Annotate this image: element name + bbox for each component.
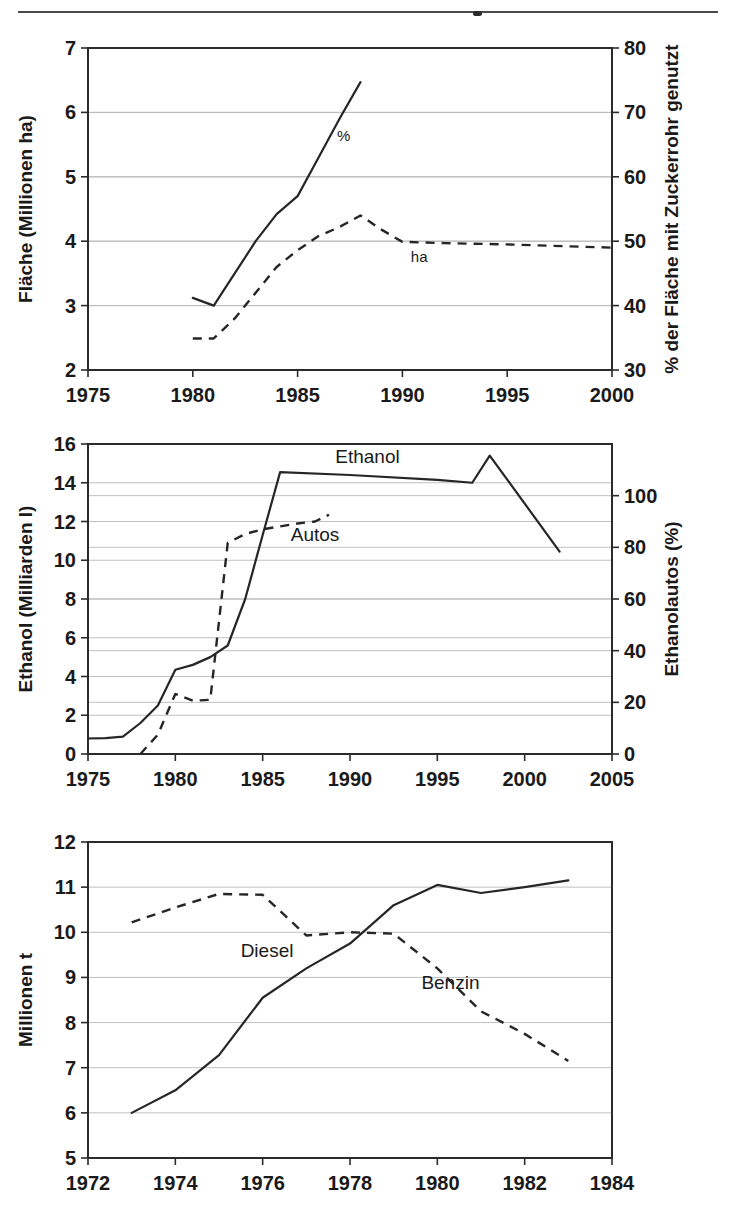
y2-tick-label: 70 xyxy=(624,101,646,123)
x-tick-label: 1974 xyxy=(153,1172,198,1194)
y-tick-label: 2 xyxy=(65,359,76,381)
x-tick-label: 1972 xyxy=(66,1172,111,1194)
y2-tick-label: 80 xyxy=(624,536,646,558)
y-tick-label: 11 xyxy=(55,876,76,898)
y2-tick-label: 40 xyxy=(624,295,646,317)
y2-axis-title: Ethanolautos (%) xyxy=(661,521,682,676)
y-tick-label: 5 xyxy=(65,1147,76,1169)
series-label-benzin: Benzin xyxy=(421,972,479,993)
y2-tick-label: 60 xyxy=(624,588,646,610)
y2-tick-label: 40 xyxy=(624,640,646,662)
y2-tick-label: 20 xyxy=(624,691,646,713)
y2-tick-label: 100 xyxy=(624,485,657,507)
y-tick-label: 14 xyxy=(54,472,77,494)
series-line-% xyxy=(193,82,361,305)
x-tick-label: 1975 xyxy=(66,384,111,406)
y-tick-label: 3 xyxy=(65,295,76,317)
chart-flaeche-zuckerrohr: 1975198019851990199520002345673040506070… xyxy=(0,22,731,414)
x-tick-label: 2000 xyxy=(590,384,635,406)
y-tick-label: 10 xyxy=(54,549,76,571)
x-tick-label: 1990 xyxy=(328,768,373,790)
x-tick-label: 1978 xyxy=(328,1172,373,1194)
x-tick-label: 1990 xyxy=(380,384,425,406)
y-axis-title: Ethanol (Milliarden l) xyxy=(15,506,36,693)
plot-frame xyxy=(88,842,612,1158)
x-tick-label: 1995 xyxy=(485,384,530,406)
y2-tick-label: 50 xyxy=(624,230,646,252)
y-tick-label: 4 xyxy=(65,666,77,688)
plot-frame xyxy=(88,48,612,370)
top-divider-rule xyxy=(18,11,718,13)
series-line-ha xyxy=(193,215,612,338)
x-tick-label: 2000 xyxy=(502,768,547,790)
chart-svg-flaeche-zuckerrohr: 1975198019851990199520002345673040506070… xyxy=(0,22,731,414)
x-tick-label: 1976 xyxy=(240,1172,285,1194)
x-tick-label: 1980 xyxy=(415,1172,460,1194)
y-tick-label: 8 xyxy=(65,1012,76,1034)
y-tick-label: 16 xyxy=(54,433,76,455)
chart-svg-ethanol-autos: 1975198019851990199520002005024681012141… xyxy=(0,414,731,814)
x-tick-label: 1980 xyxy=(153,768,198,790)
y-tick-label: 4 xyxy=(65,230,77,252)
x-tick-label: 1982 xyxy=(502,1172,547,1194)
series-label-ethanol: Ethanol xyxy=(335,446,399,467)
chart-diesel-benzin: 197219741976197819801982198456789101112M… xyxy=(0,814,731,1220)
y-tick-label: 6 xyxy=(65,627,76,649)
x-tick-label: 1985 xyxy=(240,768,285,790)
y-tick-label: 10 xyxy=(54,921,76,943)
series-line-ethanol xyxy=(88,456,560,739)
series-label-diesel: Diesel xyxy=(241,940,294,961)
y-tick-label: 6 xyxy=(65,101,76,123)
divider-mark xyxy=(473,11,482,16)
x-tick-label: 1995 xyxy=(415,768,460,790)
y-tick-label: 2 xyxy=(65,704,76,726)
y-tick-label: 12 xyxy=(54,511,76,533)
y-tick-label: 0 xyxy=(65,743,76,765)
series-label-%: % xyxy=(337,127,350,144)
x-tick-label: 2005 xyxy=(590,768,635,790)
y2-tick-label: 80 xyxy=(624,37,646,59)
y2-tick-label: 30 xyxy=(624,359,646,381)
chart-svg-diesel-benzin: 197219741976197819801982198456789101112M… xyxy=(0,814,731,1220)
y-tick-label: 12 xyxy=(54,831,76,853)
y-tick-label: 8 xyxy=(65,588,76,610)
y2-tick-label: 60 xyxy=(624,166,646,188)
x-tick-label: 1984 xyxy=(590,1172,635,1194)
x-tick-label: 1985 xyxy=(275,384,320,406)
y-tick-label: 5 xyxy=(65,166,76,188)
y2-axis-title: % der Fläche mit Zuckerrohr genutzt xyxy=(661,44,682,374)
y-tick-label: 7 xyxy=(65,1057,76,1079)
series-line-autos xyxy=(140,515,329,754)
series-label-ha: ha xyxy=(411,248,428,265)
y-axis-title: Millionen t xyxy=(15,952,36,1047)
y-tick-label: 7 xyxy=(65,37,76,59)
y-axis-title: Fläche (Millionen ha) xyxy=(15,115,36,303)
y-tick-label: 9 xyxy=(65,966,76,988)
series-label-autos: Autos xyxy=(291,524,340,545)
y2-tick-label: 0 xyxy=(624,743,635,765)
x-tick-label: 1980 xyxy=(171,384,216,406)
series-line-diesel xyxy=(132,880,569,1112)
chart-ethanol-autos: 1975198019851990199520002005024681012141… xyxy=(0,414,731,814)
figure-page: 1975198019851990199520002345673040506070… xyxy=(0,0,731,1220)
y-tick-label: 6 xyxy=(65,1102,76,1124)
x-tick-label: 1975 xyxy=(66,768,111,790)
